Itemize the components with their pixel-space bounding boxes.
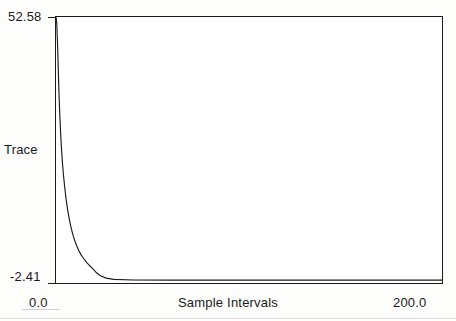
- trace-line: [56, 17, 442, 280]
- trace-plot-svg: [56, 17, 442, 283]
- y-axis-max-label: 52.58: [8, 10, 42, 24]
- x-axis-title: Sample Intervals: [0, 296, 456, 310]
- y-axis-title: Trace: [4, 143, 38, 157]
- y-axis-min-label: -2.41: [10, 270, 41, 284]
- scan-artifact-bottom-edge: [0, 318, 456, 319]
- plot-area: [55, 16, 443, 284]
- scan-artifact-underline: [22, 309, 60, 310]
- chart-page: 52.58 -2.41 Trace 0.0 200.0 Sample Inter…: [0, 0, 456, 321]
